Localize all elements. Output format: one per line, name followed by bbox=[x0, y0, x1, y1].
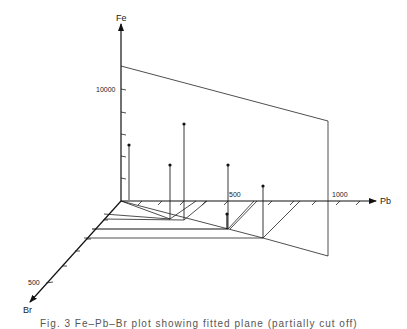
pb-tick-label-500: 500 bbox=[229, 191, 241, 198]
data-point bbox=[182, 122, 185, 125]
data-point bbox=[225, 212, 228, 215]
fitted-plane bbox=[121, 66, 328, 256]
fe-tick-label: 10000 bbox=[96, 86, 116, 93]
figure-caption: Fig. 3 Fe–Pb–Br plot showing fitted plan… bbox=[40, 318, 358, 329]
pb-axis-label: Pb bbox=[380, 196, 391, 206]
data-point bbox=[226, 163, 229, 166]
fe-axis-ticks bbox=[121, 89, 126, 179]
data-point bbox=[261, 184, 264, 187]
pb-tick-label-1000: 1000 bbox=[332, 191, 348, 198]
data-point bbox=[168, 163, 171, 166]
br-axis bbox=[30, 201, 121, 302]
br-tick-label: 500 bbox=[28, 279, 40, 286]
fe-axis-label: Fe bbox=[116, 13, 127, 23]
data-point bbox=[127, 143, 130, 146]
br-axis-label: Br bbox=[23, 305, 32, 315]
